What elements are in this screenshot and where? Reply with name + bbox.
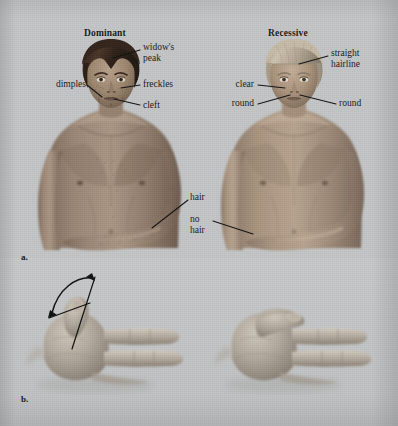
callout-dimples: dimples <box>42 79 86 90</box>
heading-dominant: Dominant <box>84 28 126 38</box>
recessive-person-illustration <box>221 39 364 250</box>
genetics-traits-figure: Dominant Recessive widow's peak dimples … <box>0 0 398 426</box>
callout-no-hair: no hair <box>190 214 205 235</box>
hitchhikers-thumb-hand <box>26 296 183 393</box>
callout-widows-peak: widow's peak <box>143 42 174 63</box>
panel-label-b: b. <box>21 394 28 404</box>
callout-round-left: round <box>210 98 254 109</box>
panel-label-a: a. <box>21 252 28 262</box>
callout-clear: clear <box>214 79 254 90</box>
recessive-head <box>265 39 323 108</box>
callout-cleft: cleft <box>143 100 160 111</box>
dominant-person-illustration <box>38 39 181 250</box>
callout-round-right: round <box>339 98 361 109</box>
callout-hair: hair <box>190 192 205 203</box>
dominant-head <box>82 39 140 108</box>
heading-recessive: Recessive <box>268 28 308 38</box>
straight-thumb-hand <box>214 309 371 393</box>
callout-freckles: freckles <box>143 79 173 90</box>
callout-straight-hairline: straight hairline <box>331 48 360 69</box>
